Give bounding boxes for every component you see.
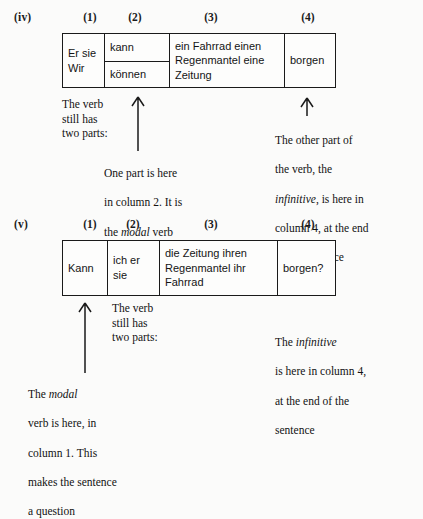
- table-v-cell-col3: die Zeitung ihren Regenmantel ihr Fahrra…: [159, 241, 277, 295]
- column-header-1-table-v: (1): [77, 218, 103, 230]
- note-modal-question-v: The modal verb is here, in column 1. Thi…: [28, 372, 117, 519]
- note-verb-two-parts-v: The verb still has two parts:: [112, 301, 158, 345]
- table-iv-cell-col4: borgen: [284, 34, 335, 87]
- note-modal-part-iv-line2: in column 2. It is: [104, 196, 182, 208]
- table-iv-cell-col2-top: kann: [105, 34, 169, 61]
- note-modal-question-v-line5: a question: [28, 505, 75, 517]
- column-header-3-table-iv: (3): [198, 11, 224, 23]
- note-modal-part-iv-line3-post: verb: [150, 226, 173, 238]
- note-verb-two-parts-iv: The verb still has two parts:: [62, 97, 108, 141]
- sentence-table-v: Kann ich er sie die Zeitung ihren Regenm…: [62, 240, 336, 296]
- table-iv-cell-col1: Er sie Wir: [63, 34, 104, 87]
- note-infinitive-iv-line2: the verb, the: [275, 163, 332, 175]
- note-modal-question-v-line2: verb is here, in: [28, 417, 96, 429]
- note-infinitive-iv-line1: The other part of: [275, 134, 353, 146]
- note-modal-part-iv-line3-pre: the: [104, 226, 121, 238]
- column-header-3-table-v: (3): [198, 218, 224, 230]
- arrow-up-icon-to-column1-v: [78, 301, 92, 373]
- example-label-iv: (iv): [14, 11, 31, 23]
- note-infinitive-v: The infinitive is here in column 4, at t…: [275, 320, 366, 438]
- note-modal-question-v-line4: makes the sentence: [28, 476, 117, 488]
- note-infinitive-iv-line4: column 4, at the end: [275, 222, 369, 234]
- note-infinitive-iv-line3-em: infinitive: [275, 193, 316, 205]
- note-modal-question-v-line1-em: modal: [49, 388, 78, 400]
- table-v-cell-col4: borgen?: [277, 241, 335, 295]
- note-infinitive-v-line2: is here in column 4,: [275, 365, 366, 377]
- note-modal-part-iv-line1: One part is here: [104, 167, 177, 179]
- note-infinitive-v-line4: sentence: [275, 424, 315, 436]
- example-label-v: (v): [14, 218, 28, 230]
- note-infinitive-v-line3: at the end of the: [275, 395, 349, 407]
- table-iv-cell-col3: ein Fahrrad einen Regenmantel eine Zeitu…: [169, 34, 284, 87]
- column-header-2-table-v: (2): [120, 218, 146, 230]
- column-header-2-table-iv: (2): [122, 11, 148, 23]
- note-infinitive-iv-line3-post: , is here in: [316, 193, 364, 205]
- arrow-up-icon-to-column4-iv: [300, 96, 314, 116]
- column-header-4-table-v: (4): [295, 218, 321, 230]
- table-v-cell-col1: Kann: [63, 241, 107, 295]
- table-iv-col2-split: kann können: [104, 34, 169, 87]
- column-header-4-table-iv: (4): [295, 11, 321, 23]
- table-iv-cell-col2-bottom: können: [105, 61, 169, 88]
- note-modal-question-v-line1-pre: The: [28, 388, 49, 400]
- sentence-table-iv: Er sie Wir kann können ein Fahrrad einen…: [62, 33, 336, 88]
- table-v-cell-col2: ich er sie: [107, 241, 159, 295]
- column-header-1-table-iv: (1): [77, 11, 103, 23]
- note-infinitive-v-line1-em: infinitive: [296, 336, 337, 348]
- note-infinitive-v-line1-pre: The: [275, 336, 296, 348]
- arrow-up-icon-to-column2-iv: [131, 95, 145, 151]
- note-modal-question-v-line3: column 1. This: [28, 447, 97, 459]
